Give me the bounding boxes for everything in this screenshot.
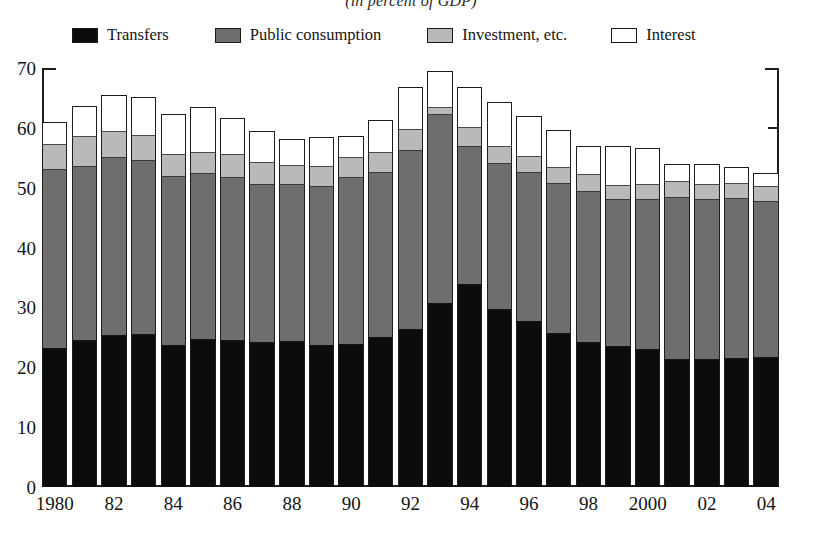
bar-segment-interest [694, 164, 719, 185]
bar-segment-interest [131, 97, 156, 136]
bar-segment-interest [338, 136, 363, 158]
bar-segment-public-consumption [368, 173, 393, 338]
legend-label: Interest [646, 27, 695, 44]
bar-segment-public-consumption [42, 170, 67, 350]
bar-segment-public-consumption [249, 185, 274, 344]
y-axis-tick-label: 0 [27, 478, 37, 497]
bar-segment-public-consumption [338, 178, 363, 345]
bar-segment-public-consumption [724, 199, 749, 359]
bar-segment-transfers [279, 342, 304, 487]
bar-1983[interactable] [131, 97, 156, 487]
bar-segment-interest [220, 118, 245, 155]
bar-1989[interactable] [309, 137, 334, 487]
bar-segment-interest [605, 146, 630, 186]
bar-segment-transfers [161, 346, 186, 487]
bar-segment-investment-etc [664, 182, 689, 198]
x-axis-tick-label: 96 [520, 494, 539, 513]
bar-segment-interest [249, 131, 274, 163]
bar-segment-investment-etc [546, 168, 571, 184]
legend-swatch-icon [72, 28, 98, 43]
bar-2004[interactable] [753, 173, 778, 487]
bar-segment-investment-etc [309, 167, 334, 187]
bar-segment-transfers [605, 347, 630, 487]
bar-1986[interactable] [220, 118, 245, 487]
bar-segment-transfers [724, 359, 749, 487]
bar-1999[interactable] [605, 146, 630, 487]
bar-segment-interest [72, 106, 97, 137]
y-axis-tick-label: 70 [17, 59, 36, 78]
bar-segment-investment-etc [190, 153, 215, 174]
bar-1995[interactable] [487, 102, 512, 487]
x-axis-tick-label: 98 [579, 494, 598, 513]
bar-segment-public-consumption [279, 185, 304, 342]
bar-segment-interest [753, 173, 778, 187]
bar-segment-public-consumption [753, 202, 778, 358]
bar-2003[interactable] [724, 167, 749, 487]
bar-1998[interactable] [576, 146, 601, 487]
bar-segment-transfers [576, 343, 601, 487]
bar-1982[interactable] [101, 95, 126, 487]
bar-segment-investment-etc [42, 145, 67, 170]
legend-label: Public consumption [250, 27, 382, 44]
x-axis-tick-label: 04 [757, 494, 776, 513]
bar-segment-public-consumption [516, 173, 541, 322]
bar-1994[interactable] [457, 87, 482, 487]
bar-1984[interactable] [161, 114, 186, 487]
bar-segment-investment-etc [338, 158, 363, 178]
x-axis-tick-labels: 198082848688909294969820000204 [42, 494, 779, 524]
bar-segment-transfers [516, 322, 541, 487]
bar-segment-public-consumption [161, 177, 186, 346]
bar-1988[interactable] [279, 139, 304, 487]
bar-segment-transfers [190, 340, 215, 487]
bar-1991[interactable] [368, 120, 393, 487]
bar-segment-investment-etc [635, 185, 660, 201]
bar-2001[interactable] [664, 164, 689, 487]
bar-segment-interest [664, 164, 689, 182]
bar-1981[interactable] [72, 106, 97, 487]
bar-1987[interactable] [249, 131, 274, 487]
bar-1993[interactable] [427, 71, 452, 487]
y-axis-tick-label: 50 [17, 178, 36, 197]
bar-segment-transfers [249, 343, 274, 487]
x-axis-tick-label: 94 [460, 494, 479, 513]
y-axis-tick-label: 60 [17, 118, 36, 137]
bar-segment-public-consumption [309, 187, 334, 346]
legend-swatch-icon [427, 28, 453, 43]
bar-segment-interest [457, 87, 482, 129]
x-axis-tick-label: 90 [342, 494, 361, 513]
bar-1980[interactable] [42, 122, 67, 487]
plot-area [42, 68, 779, 487]
legend-swatch-icon [215, 28, 241, 43]
bar-segment-investment-etc [101, 132, 126, 158]
bar-segment-public-consumption [487, 164, 512, 310]
bar-segment-investment-etc [605, 186, 630, 200]
bar-segment-public-consumption [220, 178, 245, 341]
chart-title: (in percent of GDP) [0, 0, 822, 10]
legend-item-interest: Interest [611, 27, 695, 44]
chart-legend: TransfersPublic consumptionInvestment, e… [72, 24, 772, 46]
bar-segment-public-consumption [576, 192, 601, 343]
bar-1990[interactable] [338, 136, 363, 487]
bar-segment-transfers [753, 358, 778, 487]
bar-segment-interest [42, 122, 67, 145]
bar-1985[interactable] [190, 107, 215, 487]
bar-segment-investment-etc [279, 166, 304, 186]
bar-segment-interest [516, 116, 541, 157]
legend-item-investment-etc: Investment, etc. [427, 27, 567, 44]
x-axis-tick-label: 2000 [629, 494, 667, 513]
bar-segment-investment-etc [724, 184, 749, 199]
bar-segment-interest [368, 120, 393, 154]
bar-2002[interactable] [694, 164, 719, 487]
bar-segment-investment-etc [427, 108, 452, 116]
bar-segment-investment-etc [398, 130, 423, 152]
bar-segment-transfers [309, 346, 334, 487]
bar-1992[interactable] [398, 87, 423, 487]
bar-1996[interactable] [516, 116, 541, 487]
x-axis-tick-label: 84 [164, 494, 183, 513]
bar-2000[interactable] [635, 148, 660, 487]
legend-item-public-consumption: Public consumption [215, 27, 382, 44]
y-axis-tick-label: 40 [17, 238, 36, 257]
bar-segment-interest [309, 137, 334, 166]
bar-segment-interest [101, 95, 126, 132]
bar-1997[interactable] [546, 130, 571, 487]
